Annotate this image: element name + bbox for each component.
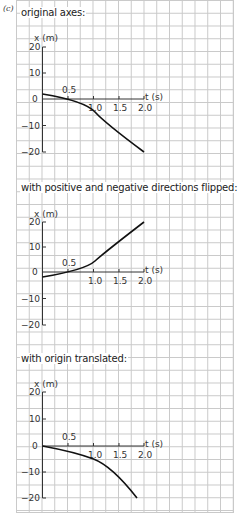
chart-3-ytick: 20 [29,387,41,397]
chart-2-ytick: −10 [21,294,40,304]
chart-3-ytick: −20 [21,493,40,503]
chart-3-ytick: 10 [29,414,41,424]
chart-1-xtick: 2.0 [138,103,153,113]
chart-1-ytick: 10 [29,68,41,78]
chart-2-curve [43,222,145,277]
chart-2-xtick: 0.5 [62,258,76,268]
chart-1-ytick: −20 [21,147,40,157]
chart-3-x-axis-label: t (s) [145,439,163,449]
chart-3-xtick: 1.5 [113,450,127,460]
chart-2-xtick: 1.0 [88,276,103,286]
chart-2-x-axis-label: t (s) [145,265,163,275]
chart-2: x (m) 20 10 0 −10 −20 0.5 1.0 1.5 2.0 t … [21,209,163,330]
chart-1-ytick: 0 [32,94,38,104]
chart-2-ytick: −20 [21,320,40,330]
chart-1-xtick: 0.5 [62,85,76,95]
chart-3-ytick: 0 [32,441,38,451]
chart-3: x (m) 20 10 0 −10 −20 0.5 1.0 1.5 2.0 t … [21,379,163,503]
chart-2-xtick: 2.0 [138,276,153,286]
chart-1-ytick: 20 [29,42,41,52]
chart-3-ytick: −10 [21,467,40,477]
chart-2-ytick: 10 [29,242,41,252]
chart-1: x (m) 20 10 0 −10 −20 0.5 1.0 1.5 2.0 t … [21,33,163,157]
chart-1-ytick: −10 [21,121,40,131]
chart-2-ytick: 20 [29,217,41,227]
chart-2-ytick: 0 [32,267,38,277]
charts-canvas: x (m) 20 10 0 −10 −20 0.5 1.0 1.5 2.0 t … [0,0,241,528]
chart-3-xtick: 0.5 [62,432,76,442]
chart-3-xtick: 2.0 [138,450,153,460]
chart-1-xtick: 1.5 [113,103,127,113]
chart-2-xtick: 1.5 [113,276,127,286]
chart-1-x-axis-label: t (s) [145,92,163,102]
